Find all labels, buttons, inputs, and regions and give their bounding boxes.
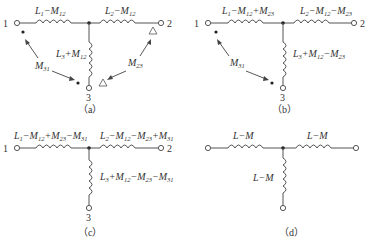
arrow-m31-to-3 xyxy=(52,71,72,79)
terminal-1-label: 1 xyxy=(3,18,8,29)
terminal-3-label: 3 xyxy=(86,212,91,223)
arrowhead-icon xyxy=(217,39,222,45)
terminal-1 xyxy=(14,20,19,25)
terminal-3 xyxy=(86,85,91,90)
inductor-left-label: L1−M12+M23 xyxy=(221,5,275,17)
inductor-vertical xyxy=(89,42,92,77)
arrow-m31-to-1 xyxy=(219,42,229,56)
terminal-3 xyxy=(280,85,285,90)
caption-b: （b） xyxy=(272,104,297,115)
terminal-1-label: 1 xyxy=(3,143,8,154)
caption-a: （a） xyxy=(78,104,102,115)
caption-d: （d） xyxy=(279,227,304,238)
inductor-right-label: L2−M12 xyxy=(104,5,136,17)
terminal-3 xyxy=(86,205,91,210)
inductor-left xyxy=(36,20,71,23)
arrowhead-icon xyxy=(263,76,269,81)
terminal-2 xyxy=(158,20,163,25)
caption-c: （c） xyxy=(78,227,102,238)
terminal-1-label: 1 xyxy=(194,18,199,29)
mutual-m31-label: M31 xyxy=(34,60,50,72)
terminal-bottom xyxy=(280,205,285,210)
terminal-1 xyxy=(14,145,19,150)
inductor-right xyxy=(296,145,331,148)
terminal-left xyxy=(205,145,210,150)
polarity-dot-3 xyxy=(270,81,273,84)
inductor-vertical-label: L3+M12−M23−M31 xyxy=(99,171,174,183)
mutual-m23-label: M23 xyxy=(127,57,144,69)
polarity-dot-1 xyxy=(21,30,24,33)
terminal-3-label: 3 xyxy=(280,92,285,103)
inductor-left-label: L1−M12 xyxy=(34,5,66,17)
terminal-1 xyxy=(205,20,210,25)
arrow-m31-to-1 xyxy=(27,42,38,58)
arrowhead-icon xyxy=(107,75,113,80)
polarity-triangle-3 xyxy=(99,79,107,86)
terminal-2-label: 2 xyxy=(360,18,365,29)
arrow-m31-to-3 xyxy=(246,71,266,79)
inductor-right-label: L2−M12−M23 xyxy=(299,5,353,17)
terminal-3-label: 3 xyxy=(86,92,91,103)
arrow-m23-to-3 xyxy=(110,71,126,78)
terminal-2-label: 2 xyxy=(167,18,172,29)
inductor-right xyxy=(100,145,135,148)
panel-b: 1 2 3 L1−M12+M23 L2−M12−M23 L3+M12−M23 M… xyxy=(194,5,365,115)
inductor-right xyxy=(294,20,329,23)
arrowhead-icon xyxy=(69,76,75,81)
inductor-left-label: L−M xyxy=(232,130,254,141)
mutual-m31-label: M31 xyxy=(229,57,245,69)
terminal-2 xyxy=(351,20,356,25)
inductor-vertical xyxy=(283,42,286,77)
arrowhead-icon xyxy=(25,39,30,45)
circuit-figure: 1 2 3 L1−M12 L2−M12 L3+M12 M31 M23 xyxy=(0,0,372,250)
polarity-dot-1 xyxy=(214,30,217,33)
polarity-dot-3 xyxy=(76,81,79,84)
inductor-vertical xyxy=(283,158,286,193)
arrow-m23-to-2 xyxy=(140,42,149,56)
terminal-2-label: 2 xyxy=(167,143,172,154)
polarity-triangle-2 xyxy=(149,27,157,34)
inductor-left xyxy=(36,145,71,148)
inductor-left-label: L1−M12+M23−M31 xyxy=(13,130,88,142)
inductor-vertical xyxy=(89,160,92,195)
inductor-vertical-label: L−M xyxy=(252,172,274,183)
inductor-right xyxy=(100,20,135,23)
panel-a: 1 2 3 L1−M12 L2−M12 L3+M12 M31 M23 xyxy=(3,5,172,115)
inductor-left xyxy=(228,20,263,23)
inductor-left xyxy=(228,145,263,148)
panel-c: 1 2 3 L1−M12+M23−M31 L2−M12−M23+M31 L3+M… xyxy=(3,130,174,238)
inductor-vertical-label: L3+M12−M23 xyxy=(292,48,346,60)
panel-d: L−M L−M L−M （d） xyxy=(205,130,358,238)
inductor-vertical-label: L3+M12 xyxy=(55,48,87,60)
terminal-2 xyxy=(158,145,163,150)
terminal-right xyxy=(353,145,358,150)
inductor-right-label: L−M xyxy=(306,130,328,141)
inductor-right-label: L2−M12−M23+M31 xyxy=(99,130,174,142)
